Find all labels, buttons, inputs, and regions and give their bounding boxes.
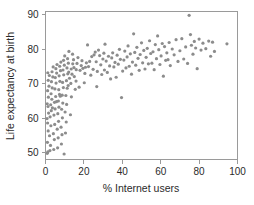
data-point <box>62 73 65 76</box>
data-point <box>46 141 49 144</box>
data-point <box>100 73 103 76</box>
data-point <box>156 34 159 37</box>
y-tick-label: 50 <box>27 147 39 158</box>
data-point <box>213 50 216 53</box>
data-point <box>204 47 207 50</box>
data-point <box>59 61 62 64</box>
data-point <box>105 59 108 62</box>
x-axis-tick-labels: 020406080100 <box>43 166 247 177</box>
data-point <box>113 61 116 64</box>
data-point <box>59 126 62 129</box>
data-point <box>71 53 74 56</box>
x-tick-label: 100 <box>229 166 246 177</box>
data-point <box>123 49 126 52</box>
data-point <box>57 106 60 109</box>
data-point <box>158 63 161 66</box>
data-point <box>55 72 58 75</box>
data-point <box>140 41 143 44</box>
data-point <box>67 84 70 87</box>
data-point <box>134 64 137 67</box>
data-point <box>129 52 132 55</box>
data-point <box>186 62 189 65</box>
data-point <box>163 45 166 48</box>
data-point <box>72 58 75 61</box>
data-point <box>130 73 133 76</box>
data-point <box>49 103 52 106</box>
y-tick-label: 80 <box>27 44 39 55</box>
data-point <box>108 64 111 67</box>
data-point <box>52 65 55 68</box>
data-point <box>126 55 129 58</box>
data-point <box>53 123 56 126</box>
data-point <box>99 63 102 66</box>
data-point <box>57 99 60 102</box>
data-point <box>188 14 191 17</box>
data-point <box>60 133 63 136</box>
data-point <box>61 101 64 104</box>
data-point <box>52 132 55 135</box>
data-point <box>71 62 74 65</box>
data-point <box>87 65 90 68</box>
data-point <box>199 48 202 51</box>
data-point <box>141 61 144 64</box>
data-points-layer <box>45 14 228 156</box>
data-point <box>117 63 120 66</box>
data-point <box>75 68 78 71</box>
data-point <box>49 124 52 127</box>
data-point <box>174 38 177 41</box>
data-point <box>139 53 142 56</box>
data-point <box>198 37 201 40</box>
data-point <box>95 85 98 88</box>
data-point <box>64 131 67 134</box>
y-tick-label: 70 <box>27 78 39 89</box>
data-point <box>54 67 57 70</box>
data-point <box>58 74 61 77</box>
data-point <box>126 44 129 47</box>
data-point <box>151 50 154 53</box>
data-point <box>98 54 101 57</box>
data-point <box>56 128 59 131</box>
data-point <box>54 81 57 84</box>
data-point <box>54 76 57 79</box>
data-point <box>46 121 49 124</box>
data-point <box>75 62 78 65</box>
data-point <box>178 49 181 52</box>
data-point <box>67 62 70 65</box>
data-point <box>62 59 65 62</box>
data-point <box>74 88 77 91</box>
data-point <box>61 68 64 71</box>
life-expectancy-vs-internet-users-chart: 020406080100 5060708090 % Internet users… <box>0 0 254 205</box>
data-point <box>61 81 64 84</box>
data-point <box>55 63 58 66</box>
data-point <box>70 95 73 98</box>
data-point <box>60 108 63 111</box>
data-point <box>52 114 55 117</box>
data-point <box>50 109 53 112</box>
x-axis-title: % Internet users <box>103 182 179 194</box>
data-point <box>118 48 121 51</box>
data-point <box>63 110 66 113</box>
y-axis-tick-labels: 5060708090 <box>27 9 39 158</box>
x-tick-label: 20 <box>78 166 90 177</box>
data-point <box>68 77 71 80</box>
data-point <box>180 37 183 40</box>
data-point <box>53 87 56 90</box>
data-point <box>173 53 176 56</box>
x-tick-label: 0 <box>43 166 49 177</box>
data-point <box>86 43 89 46</box>
data-point <box>133 51 136 54</box>
data-point <box>209 55 212 58</box>
data-point <box>65 120 68 123</box>
data-point <box>122 58 125 61</box>
data-point <box>64 94 67 97</box>
data-point <box>65 79 68 82</box>
data-point <box>54 95 57 98</box>
data-point <box>115 76 118 79</box>
data-point <box>48 134 51 137</box>
data-point <box>146 47 149 50</box>
data-point <box>107 55 110 58</box>
data-point <box>57 120 60 123</box>
data-point <box>58 65 61 68</box>
data-point <box>119 58 122 61</box>
data-point <box>89 74 92 77</box>
